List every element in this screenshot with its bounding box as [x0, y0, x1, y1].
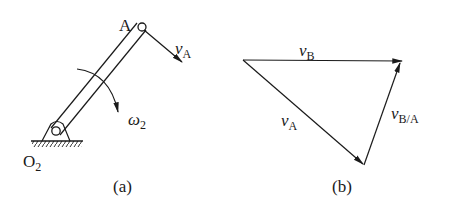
omega-label: ω2 [128, 110, 146, 132]
point-a-label: A [119, 16, 132, 35]
omega-arc-arrow [77, 69, 118, 112]
velocity-va-label: vA [175, 39, 192, 61]
va-label: vA [281, 111, 298, 133]
vector-vb [243, 60, 402, 61]
vb-label: vB [299, 41, 315, 63]
pivot-pin-o2 [52, 127, 60, 135]
figure-a: A vA ω2 O2 (a) [23, 16, 192, 196]
vector-va [243, 60, 363, 164]
figure-b: vB vA vB/A (b) [243, 41, 419, 196]
caption-b: (b) [332, 177, 352, 196]
vba-label: vB/A [391, 104, 419, 126]
pivot-o2-label: O2 [23, 152, 41, 174]
caption-a: (a) [113, 177, 132, 196]
velocity-diagram: A vA ω2 O2 (a) vB vA vB/A (b) [0, 0, 449, 211]
pin-a [138, 23, 146, 31]
